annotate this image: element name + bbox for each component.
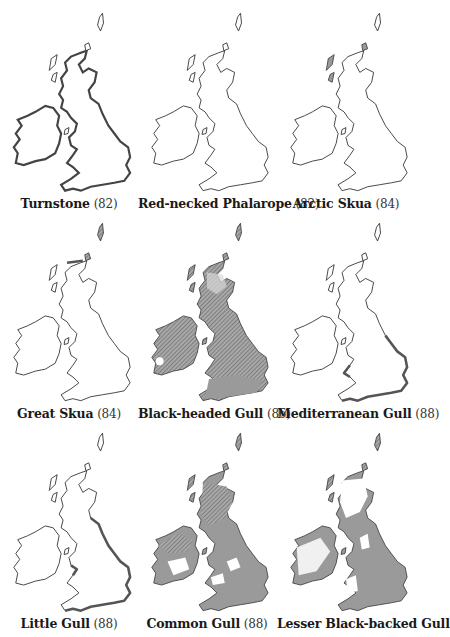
- map-panel-common-gull: Common Gull (88): [138, 422, 276, 634]
- britain-ireland-map: [0, 422, 138, 616]
- map-panel-little-gull: Little Gull (88): [0, 422, 138, 634]
- britain-ireland-map: [277, 422, 415, 616]
- species-year: (88): [94, 617, 118, 631]
- species-name: Lesser Black-backed Gull: [277, 616, 450, 631]
- species-name: Black-headed Gull: [138, 406, 263, 421]
- species-name: Turnstone: [21, 196, 90, 211]
- species-year: (82): [94, 197, 118, 211]
- britain-ireland-map: [138, 422, 276, 616]
- species-name: Mediterranean Gull: [277, 406, 412, 421]
- britain-ireland-map: [277, 212, 415, 406]
- map-panel-red-necked-phalarope: Red-necked Phalarope (82): [138, 2, 276, 214]
- map-caption: Common Gull (88): [138, 616, 276, 631]
- map-panel-turnstone: Turnstone (82): [0, 2, 138, 214]
- map-panel-black-headed-gull: Black-headed Gull (86): [138, 212, 276, 424]
- species-name: Little Gull: [21, 616, 90, 631]
- britain-ireland-map: [138, 2, 276, 196]
- species-year: (84): [376, 197, 400, 211]
- map-panel-arctic-skua: Arctic Skua (84): [277, 2, 415, 214]
- map-caption: Red-necked Phalarope (82): [138, 196, 276, 211]
- map-panel-mediterranean-gull: Mediterranean Gull (88): [277, 212, 415, 424]
- britain-ireland-map: [277, 2, 415, 196]
- species-year: (88): [244, 617, 268, 631]
- map-caption: Mediterranean Gull (88): [277, 406, 415, 421]
- species-year: (84): [97, 407, 121, 421]
- species-name: Great Skua: [17, 406, 93, 421]
- map-caption: Lesser Black-backed Gull: [277, 616, 415, 631]
- map-panel-lesser-black-backed-gull: Lesser Black-backed Gull: [277, 422, 415, 634]
- britain-ireland-map: [0, 2, 138, 196]
- species-name: Red-necked Phalarope: [138, 196, 292, 211]
- species-name: Common Gull: [146, 616, 240, 631]
- map-caption: Arctic Skua (84): [277, 196, 415, 211]
- britain-ireland-map: [0, 212, 138, 406]
- map-caption: Little Gull (88): [0, 616, 138, 631]
- map-caption: Black-headed Gull (86): [138, 406, 276, 421]
- species-name: Arctic Skua: [293, 196, 372, 211]
- map-caption: Turnstone (82): [0, 196, 138, 211]
- map-caption: Great Skua (84): [0, 406, 138, 421]
- britain-ireland-map: [138, 212, 276, 406]
- species-year: (88): [415, 407, 439, 421]
- map-panel-great-skua: Great Skua (84): [0, 212, 138, 424]
